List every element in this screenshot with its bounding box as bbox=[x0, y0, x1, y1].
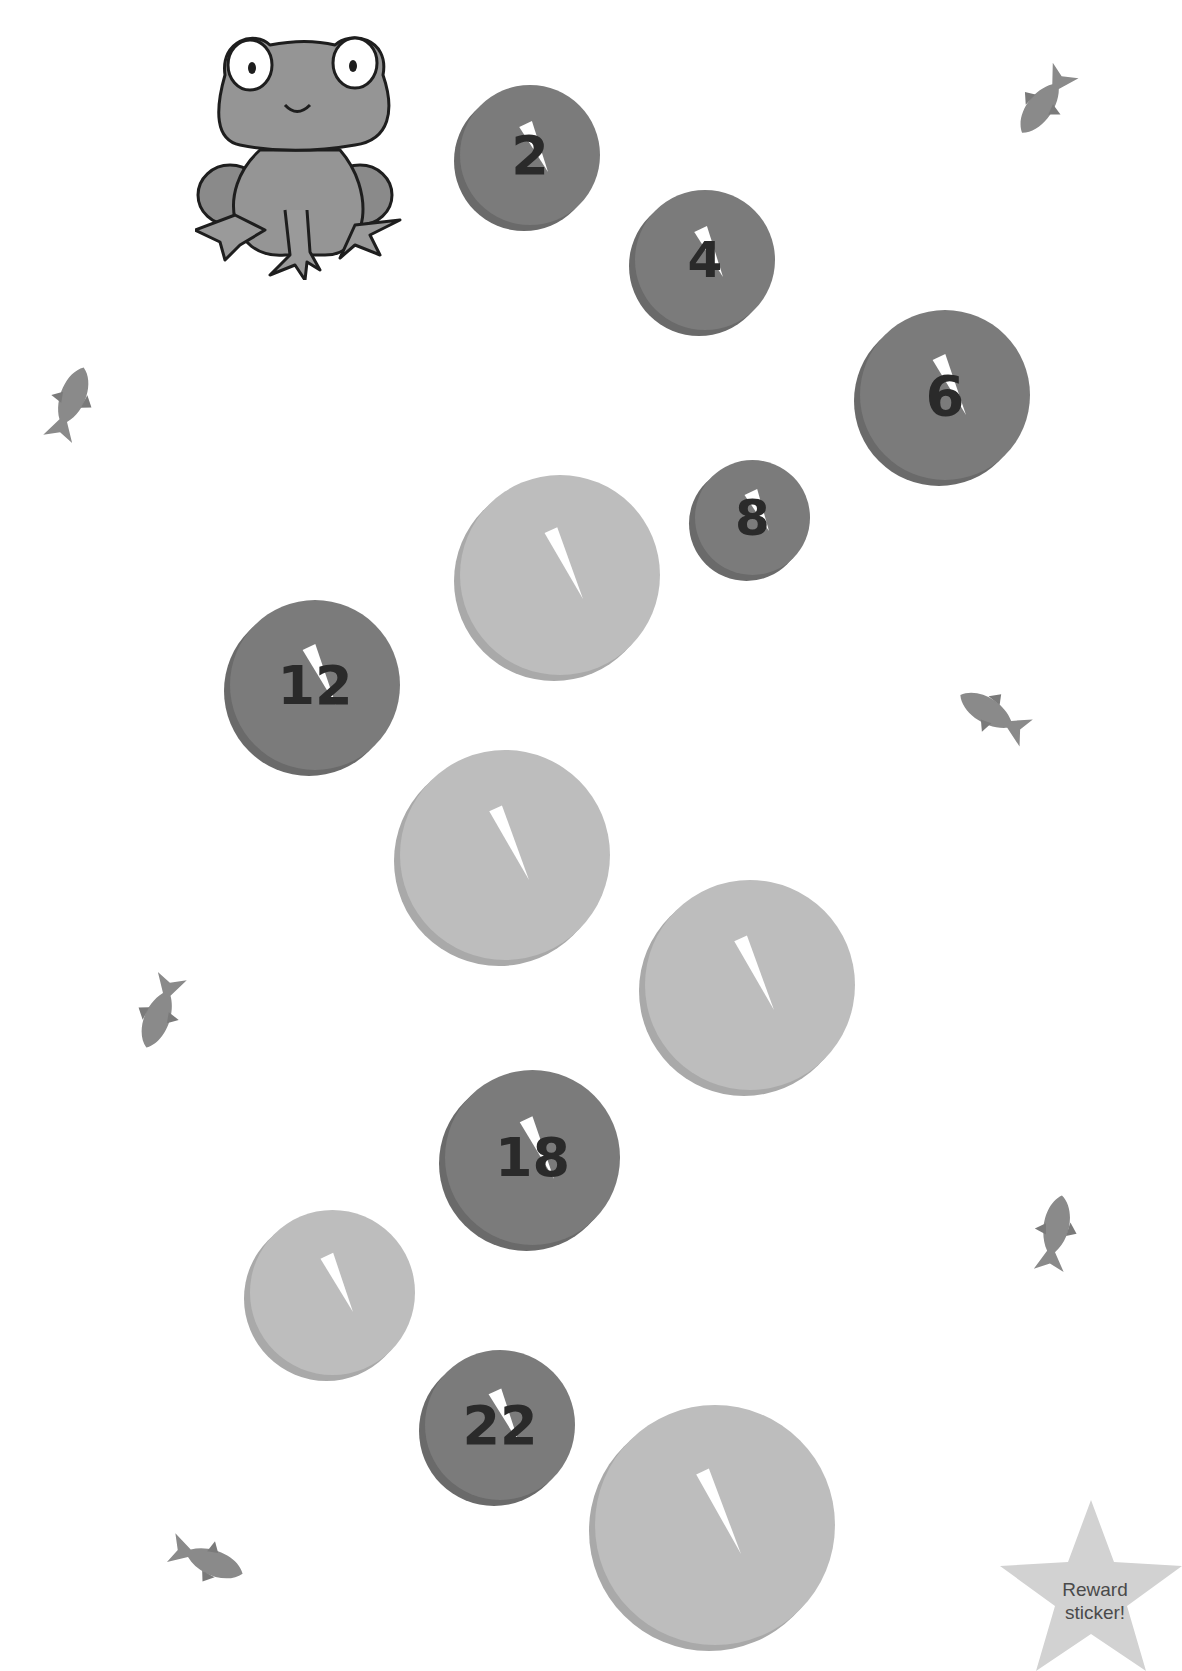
fish-icon bbox=[1023, 1186, 1088, 1283]
pad-number bbox=[645, 880, 855, 1090]
pad-number: 12 bbox=[230, 600, 400, 770]
lily-pad-8: 8 bbox=[695, 460, 810, 575]
pad-number bbox=[250, 1210, 415, 1375]
fish-icon bbox=[121, 959, 199, 1061]
lily-pad-blank[interactable] bbox=[400, 750, 610, 960]
pad-number: 22 bbox=[425, 1350, 575, 1500]
frog-illustration bbox=[195, 30, 425, 280]
lily-pad-blank[interactable] bbox=[460, 475, 660, 675]
lily-pad-4: 4 bbox=[635, 190, 775, 330]
pad-number bbox=[400, 750, 610, 960]
lily-pad-blank[interactable] bbox=[250, 1210, 415, 1375]
reward-line-2: sticker! bbox=[1040, 1601, 1150, 1624]
lily-pad-22: 22 bbox=[425, 1350, 575, 1500]
lily-pad-2: 2 bbox=[460, 85, 600, 225]
lily-pad-blank[interactable] bbox=[595, 1405, 835, 1645]
lily-pad-6: 6 bbox=[860, 310, 1030, 480]
reward-sticker-label: Reward sticker! bbox=[1040, 1578, 1150, 1624]
reward-line-1: Reward bbox=[1040, 1578, 1150, 1601]
pad-number: 8 bbox=[695, 460, 810, 575]
fish-icon bbox=[154, 1521, 256, 1599]
pad-number: 2 bbox=[460, 85, 600, 225]
lily-pad-18: 18 bbox=[445, 1070, 620, 1245]
fish-icon bbox=[944, 671, 1047, 759]
pad-number: 6 bbox=[860, 310, 1030, 480]
lily-pad-blank[interactable] bbox=[645, 880, 855, 1090]
pad-number: 4 bbox=[635, 190, 775, 330]
lily-pad-12: 12 bbox=[230, 600, 400, 770]
fish-icon bbox=[999, 49, 1092, 151]
pad-number: 18 bbox=[445, 1070, 620, 1245]
pad-number bbox=[595, 1405, 835, 1645]
fish-icon bbox=[31, 354, 109, 456]
pad-number bbox=[460, 475, 660, 675]
